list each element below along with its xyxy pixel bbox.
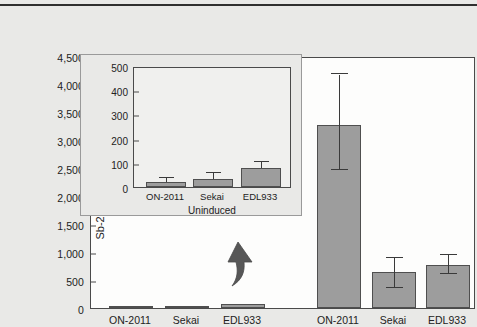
inset-x-tick-label: Sekai <box>200 191 224 202</box>
y-tick-mark <box>91 226 96 227</box>
y-tick-mark <box>91 282 96 283</box>
inset-error-bar <box>213 173 214 179</box>
inset-y-tick-label: 300 <box>111 111 134 122</box>
error-bar-cap-top <box>440 254 457 255</box>
inset-error-bar <box>166 178 167 181</box>
inset-error-bar-cap <box>206 172 221 173</box>
inset-error-bar-cap <box>254 161 269 162</box>
y-tick-label: 1,000 <box>57 248 91 260</box>
inset-y-tick-label: 0 <box>122 184 134 195</box>
figure-container: Sb-2 produced (mL/ng) 05001,0001,5002,00… <box>0 0 477 327</box>
inset-y-tick-label: 500 <box>111 63 134 74</box>
inset-y-tick-label: 200 <box>111 135 134 146</box>
inset-bar-chart: 0100200300400500 <box>133 67 291 188</box>
inset-y-tick-mark <box>134 116 139 117</box>
x-tick-label: Sekai <box>380 314 406 326</box>
inset-y-tick-label: 400 <box>111 87 134 98</box>
error-bar-cap-bottom <box>331 169 348 170</box>
inset-bar <box>241 168 281 187</box>
inset-y-tick-label: 100 <box>111 159 134 170</box>
bar <box>221 304 265 308</box>
inset-bar <box>193 179 233 187</box>
inset-y-tick-mark <box>134 164 139 165</box>
chart-panel: Sb-2 produced (mL/ng) 05001,0001,5002,00… <box>22 25 457 305</box>
inset-panel: 0100200300400500 ON-2011SekaiEDL933Unind… <box>80 54 302 216</box>
error-bar <box>394 258 395 288</box>
y-tick-label: 500 <box>66 276 91 288</box>
inset-x-tick-label: EDL933 <box>243 191 277 202</box>
y-tick-label: 1,500 <box>57 220 91 232</box>
inset-x-axis-group-label: Uninduced <box>188 205 236 216</box>
y-tick-mark <box>91 254 96 255</box>
inset-x-tick-label: ON-2011 <box>146 191 184 202</box>
x-tick-label: Sekai <box>173 314 199 326</box>
error-bar <box>339 75 340 171</box>
error-bar-cap-bottom <box>440 273 457 274</box>
top-divider-rule <box>0 4 477 6</box>
inset-bar <box>146 182 186 187</box>
x-tick-label: ON-2011 <box>317 314 359 326</box>
error-bar <box>448 255 449 274</box>
y-tick-label: 0 <box>78 304 91 316</box>
error-bar-cap-bottom <box>386 287 403 288</box>
bar <box>165 306 209 309</box>
inset-y-tick-mark <box>134 140 139 141</box>
inset-y-tick-mark <box>134 92 139 93</box>
error-bar-cap-top <box>386 257 403 258</box>
bar <box>109 306 153 309</box>
x-tick-label: EDL933 <box>428 314 466 326</box>
inset-error-bar <box>261 162 262 168</box>
error-bar-cap-top <box>331 73 348 74</box>
x-tick-label: ON-2011 <box>109 314 151 326</box>
x-tick-label: EDL933 <box>223 314 261 326</box>
inset-error-bar-cap <box>159 177 174 178</box>
